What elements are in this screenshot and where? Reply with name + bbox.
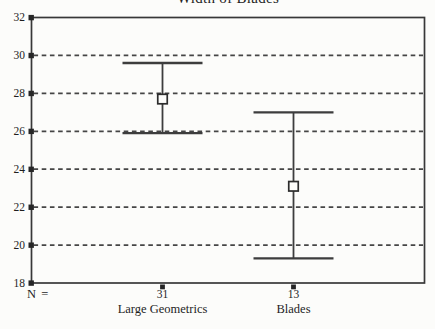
y-tick-square (29, 205, 34, 210)
n-value-label: 13 (288, 288, 300, 300)
y-tick-square (29, 53, 34, 58)
y-tick-label: 26 (14, 125, 26, 137)
y-tick-square (29, 242, 34, 247)
n-equals-label: N = (27, 287, 49, 302)
n-value-label: 31 (157, 288, 169, 300)
plot-frame (32, 18, 425, 284)
y-tick-label: 32 (14, 11, 26, 23)
chart-title: Width of Blades (31, 0, 425, 7)
category-label: Blades (276, 302, 310, 316)
error-bar-chart-figure: Width of Blades 323028262422201831Large … (0, 0, 435, 329)
y-tick-label: 22 (14, 201, 26, 213)
y-tick-square (29, 91, 34, 96)
y-tick-square (29, 15, 34, 20)
y-tick-label: 18 (14, 277, 26, 289)
y-tick-square (29, 280, 34, 285)
y-tick-label: 20 (14, 239, 26, 251)
y-tick-square (29, 129, 34, 134)
y-tick-square (29, 167, 34, 172)
chart-canvas: 323028262422201831Large Geometrics13Blad… (0, 0, 435, 329)
mean-marker (158, 94, 168, 104)
category-label: Large Geometrics (118, 302, 208, 316)
y-tick-label: 28 (14, 87, 26, 99)
y-tick-label: 30 (14, 49, 26, 61)
mean-marker (289, 182, 299, 192)
y-tick-label: 24 (14, 163, 26, 175)
